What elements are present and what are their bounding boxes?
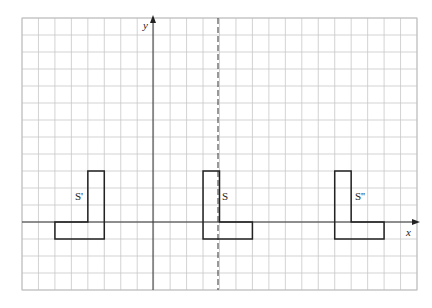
y-axis-label: y — [142, 19, 148, 31]
x-axis-label: x — [405, 226, 411, 238]
x-axis-arrow-icon — [412, 219, 420, 225]
shape-label-s: S — [222, 190, 228, 202]
y-axis-arrow-icon — [150, 15, 156, 23]
coordinate-grid-figure: x y S' S S'' — [0, 0, 432, 308]
grid-lines — [22, 18, 417, 290]
shape-label-s-double-prime: S'' — [355, 190, 365, 202]
shape-label-s-prime: S' — [75, 190, 83, 202]
